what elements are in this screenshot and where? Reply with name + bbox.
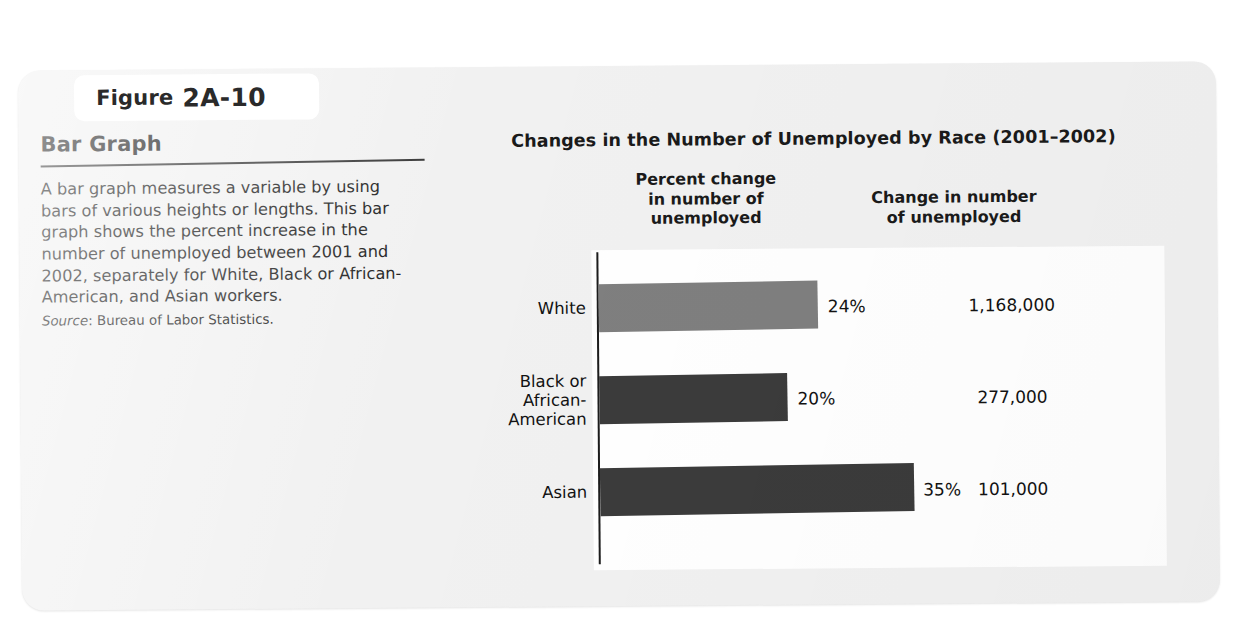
- title-divider: [41, 159, 425, 168]
- chart-title: Changes in the Number of Unemployed by R…: [418, 125, 1208, 151]
- bar-row: Black or African- American 20% 277,000: [592, 368, 1165, 428]
- bar-white: [598, 281, 818, 333]
- value-label-count-white: 1,168,000: [892, 294, 1132, 316]
- category-label-black-african-american: Black or African- American: [426, 372, 586, 431]
- description-text: A bar graph measures a variable by using…: [41, 176, 420, 309]
- bar-asian: [600, 463, 915, 516]
- figure-number: 2A-10: [182, 82, 266, 112]
- value-label-percent-white: 24%: [828, 296, 866, 316]
- plot-panel: White 24% 1,168,000 Black or African- Am…: [591, 246, 1166, 570]
- plot-area: White 24% 1,168,000 Black or African- Am…: [591, 246, 1166, 570]
- column-header-percent-change: Percent change in number of unemployed: [601, 168, 811, 228]
- panel-title: Bar Graph: [40, 129, 440, 156]
- value-label-percent-black-african-american: 20%: [797, 388, 835, 408]
- value-label-count-black-african-american: 277,000: [892, 386, 1132, 408]
- value-label-count-asian: 101,000: [893, 478, 1133, 500]
- description-panel: Bar Graph A bar graph measures a variabl…: [40, 129, 442, 328]
- bar-row: White 24% 1,168,000: [592, 276, 1165, 336]
- source-line: Source: Bureau of Labor Statistics.: [42, 310, 442, 328]
- category-label-white: White: [426, 299, 586, 319]
- figure-number-badge: Figure 2A-10: [74, 73, 319, 121]
- figure-card: Figure 2A-10 Bar Graph A bar graph measu…: [18, 61, 1220, 610]
- source-label: Source: [42, 313, 88, 328]
- category-label-asian: Asian: [427, 483, 587, 503]
- bar-black-african-american: [599, 373, 788, 424]
- source-text: : Bureau of Labor Statistics.: [88, 311, 274, 327]
- chart-region: Changes in the Number of Unemployed by R…: [418, 61, 1212, 607]
- bar-row: Asian 35% 101,000: [593, 460, 1166, 520]
- figure-label-word: Figure: [96, 85, 174, 110]
- column-header-change-in-number: Change in number of unemployed: [819, 186, 1089, 227]
